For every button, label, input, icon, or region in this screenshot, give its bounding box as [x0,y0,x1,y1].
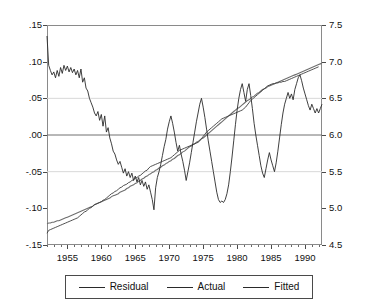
left-axis-tick-label: -.15 [4,240,42,250]
legend-item-actual[interactable]: Actual [158,282,235,292]
legend-label-residual: Residual [110,282,149,292]
x-axis-tick-label: 1980 [220,253,254,263]
x-axis-minor-tick [319,245,320,247]
x-axis-minor-tick [176,245,177,247]
left-axis-tick-label: .00 [4,130,42,140]
right-axis-tick [322,245,326,246]
x-axis-minor-tick [244,245,245,247]
x-axis-tick [101,245,102,249]
right-axis-tick [322,98,326,99]
x-axis-minor-tick [230,245,231,247]
x-axis-minor-tick [217,245,218,247]
x-axis-minor-tick [108,245,109,247]
left-axis-tick-label: .15 [4,20,42,30]
x-axis-minor-tick [190,245,191,247]
right-axis-tick-label: 7.0 [329,57,342,67]
x-axis-minor-tick [258,245,259,247]
chart-root: .15.10.05.00-.05-.10-.15 7.57.06.56.05.5… [0,0,377,308]
x-axis-minor-tick [54,245,55,247]
x-axis-minor-tick [291,245,292,247]
right-axis-tick [322,172,326,173]
left-axis-tick [43,98,47,99]
right-axis-tick-label: 6.5 [329,93,342,103]
right-axis-tick-label: 5.0 [329,203,342,213]
legend-line-fitted [243,287,269,288]
x-axis-tick-label: 1970 [152,253,186,263]
x-axis-minor-tick [61,245,62,247]
x-axis-minor-tick [224,245,225,247]
x-axis-tick [237,245,238,249]
x-axis-tick-label: 1960 [84,253,118,263]
x-axis-minor-tick [210,245,211,247]
series-actual [47,63,322,224]
x-axis-minor-tick [251,245,252,247]
x-axis-minor-tick [298,245,299,247]
x-axis-minor-tick [122,245,123,247]
x-axis-minor-tick [74,245,75,247]
x-axis-tick-label: 1955 [50,253,84,263]
x-axis-tick [271,245,272,249]
legend-label-fitted: Fitted [274,282,299,292]
left-axis-tick-label: .05 [4,93,42,103]
legend-line-actual [167,287,193,288]
x-axis-tick-label: 1990 [288,253,322,263]
left-axis-tick [43,208,47,209]
left-axis-tick [43,172,47,173]
x-axis-minor-tick [149,245,150,247]
left-axis-tick [43,135,47,136]
chart-legend: Residual Actual Fitted [65,275,313,299]
x-axis-tick [67,245,68,249]
left-axis-tick [43,25,47,26]
right-axis-tick-label: 6.0 [329,130,342,140]
right-axis-tick [322,25,326,26]
right-axis-tick [322,62,326,63]
x-axis-minor-tick [278,245,279,247]
x-axis-minor-tick [183,245,184,247]
left-axis-tick-label: -.05 [4,167,42,177]
legend-item-fitted[interactable]: Fitted [234,282,308,292]
x-axis-minor-tick [47,245,48,247]
plot-area [47,25,322,245]
left-axis-tick-label: -.10 [4,203,42,213]
x-axis-tick [203,245,204,249]
x-axis-minor-tick [196,245,197,247]
x-axis-minor-tick [81,245,82,247]
x-axis-tick-label: 1985 [254,253,288,263]
x-axis-tick-label: 1975 [186,253,220,263]
series-residual [47,36,322,210]
left-axis-tick-label: .10 [4,57,42,67]
legend-label-actual: Actual [198,282,226,292]
right-axis-tick-label: 7.5 [329,20,342,30]
x-axis-minor-tick [285,245,286,247]
x-axis-minor-tick [142,245,143,247]
right-axis-tick [322,135,326,136]
x-axis-minor-tick [162,245,163,247]
series-canvas [47,25,322,245]
x-axis-tick [169,245,170,249]
x-axis-minor-tick [115,245,116,247]
x-axis-minor-tick [156,245,157,247]
x-axis-tick [135,245,136,249]
right-axis-tick-label: 4.5 [329,240,342,250]
left-axis-tick [43,62,47,63]
x-axis-minor-tick [129,245,130,247]
x-axis-minor-tick [88,245,89,247]
x-axis-minor-tick [312,245,313,247]
x-axis-tick [305,245,306,249]
right-axis-tick-label: 5.5 [329,167,342,177]
right-axis-tick [322,208,326,209]
x-axis-minor-tick [95,245,96,247]
x-axis-minor-tick [264,245,265,247]
legend-line-residual [79,287,105,288]
x-axis-tick-label: 1965 [118,253,152,263]
legend-item-residual[interactable]: Residual [70,282,158,292]
